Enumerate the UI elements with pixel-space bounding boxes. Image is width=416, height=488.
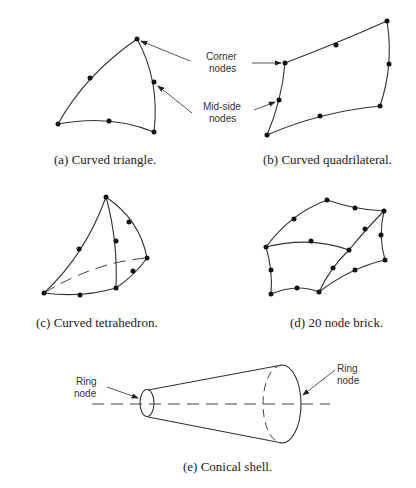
midside-node bbox=[152, 80, 157, 85]
caption-d: (d) 20 node brick. bbox=[290, 315, 383, 330]
figure-curved-tetrahedron: (c) Curved tetrahedron. bbox=[36, 195, 158, 331]
corner-node bbox=[347, 248, 352, 253]
figure-curved-triangle: (a) Curved triangle. bbox=[54, 37, 192, 168]
midside-node bbox=[77, 247, 82, 252]
corner-node bbox=[265, 133, 270, 138]
corner-node bbox=[378, 104, 383, 109]
ring-node-right-label-2: node bbox=[337, 375, 360, 386]
figure-20-node-brick: (d) 20 node brick. bbox=[264, 198, 388, 331]
midside-node bbox=[269, 268, 274, 273]
midside-node bbox=[131, 269, 136, 274]
corner-node bbox=[104, 195, 109, 200]
corner-node bbox=[385, 19, 390, 24]
ring-arrow-left bbox=[107, 387, 138, 398]
midside-node bbox=[295, 286, 300, 291]
corner-node bbox=[382, 209, 387, 214]
caption-a: (a) Curved triangle. bbox=[54, 152, 156, 167]
node-labels: Corner nodes Mid-side nodes bbox=[203, 51, 241, 124]
midside-node bbox=[292, 217, 297, 222]
midside-node bbox=[379, 233, 384, 238]
finite-element-types-diagram: (a) Curved triangle. Corner nodes Mid-si… bbox=[0, 0, 416, 488]
corner-node bbox=[317, 290, 322, 295]
figure-conical-shell: Ring node Ring node (e) Conical shell. bbox=[74, 363, 360, 474]
ring-arrow-right bbox=[303, 370, 335, 395]
corner-node bbox=[152, 130, 157, 135]
midside-node bbox=[127, 220, 132, 225]
figure-curved-quadrilateral: (b) Curved quadrilateral. bbox=[252, 19, 392, 168]
corner-arrow-a bbox=[141, 41, 190, 61]
corner-node bbox=[269, 292, 274, 297]
caption-b: (b) Curved quadrilateral. bbox=[263, 152, 392, 167]
small-ring bbox=[140, 390, 154, 417]
midside-nodes-label-2: nodes bbox=[209, 113, 236, 124]
corner-node bbox=[283, 61, 288, 66]
midside-node bbox=[353, 206, 358, 211]
corner-node bbox=[325, 198, 330, 203]
ring-node-right-label-1: Ring bbox=[337, 363, 358, 374]
midside-node bbox=[318, 114, 323, 119]
corner-node bbox=[56, 122, 61, 127]
midside-node bbox=[277, 98, 282, 103]
midside-node bbox=[353, 268, 358, 273]
midside-node bbox=[78, 293, 83, 298]
midside-node bbox=[334, 43, 339, 48]
midside-node bbox=[114, 239, 119, 244]
ring-node-left-label-2: node bbox=[74, 388, 97, 399]
ring-node-left-label-1: Ring bbox=[76, 376, 97, 387]
corner-nodes-label-2: nodes bbox=[209, 63, 236, 74]
caption-c: (c) Curved tetrahedron. bbox=[36, 315, 158, 330]
corner-nodes-label-1: Corner bbox=[206, 51, 237, 62]
corner-node bbox=[145, 256, 150, 261]
midside-node bbox=[387, 62, 392, 67]
corner-node bbox=[135, 37, 140, 42]
midside-node bbox=[309, 239, 314, 244]
midside-arrow-a bbox=[158, 86, 192, 113]
corner-node bbox=[264, 245, 269, 250]
midside-node bbox=[107, 119, 112, 124]
corner-node bbox=[42, 291, 47, 296]
midside-arrow-b bbox=[254, 102, 275, 110]
caption-e: (e) Conical shell. bbox=[183, 459, 272, 474]
midside-node bbox=[88, 76, 93, 81]
midside-node bbox=[331, 266, 336, 271]
corner-node bbox=[383, 258, 388, 263]
corner-node bbox=[114, 286, 119, 291]
midside-nodes-label-1: Mid-side bbox=[203, 101, 241, 112]
midside-node bbox=[363, 227, 368, 232]
